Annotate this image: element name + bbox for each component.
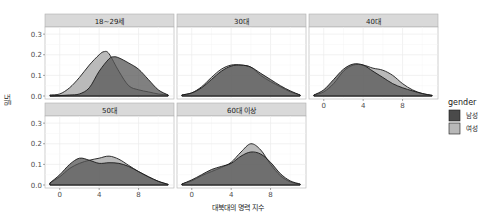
y-tick-label: 0.2: [31, 140, 42, 148]
x-tick-label: 8: [136, 191, 140, 199]
y-tick-label: 0.0: [31, 182, 42, 190]
x-tick-label: 4: [97, 191, 102, 199]
x-tick-label: 4: [229, 191, 234, 199]
facet-panel: 40대048: [309, 14, 438, 110]
y-tick-label: 0.2: [31, 51, 42, 59]
facet-label: 18~29세: [95, 17, 125, 26]
legend-label-female: 여성: [466, 124, 478, 133]
facet-label: 50대: [102, 107, 117, 115]
x-tick-label: 0: [190, 191, 194, 199]
facet-label: 60대 이상: [227, 106, 257, 115]
legend: gender 남성 여성: [448, 98, 478, 134]
facet-label: 40대: [366, 18, 381, 26]
facet-panel: 30대: [177, 14, 306, 99]
x-tick-label: 0: [322, 102, 326, 110]
facet-panel: 18~29세0.00.10.20.3: [31, 14, 174, 101]
x-tick-label: 8: [268, 191, 272, 199]
x-tick-label: 8: [400, 102, 404, 110]
legend-label-male: 남성: [466, 111, 478, 120]
legend-swatch-female: [449, 123, 460, 134]
facet-panel: 60대 이상048: [177, 103, 306, 199]
x-tick-label: 4: [361, 102, 366, 110]
x-axis-title: 대북대의 명력 지수: [212, 203, 265, 212]
density-chart: 18~29세0.00.10.20.330대40대04850대0.00.10.20…: [0, 0, 497, 221]
x-tick-label: 0: [58, 191, 62, 199]
facet-panel: 50대0.00.10.20.3048: [31, 103, 174, 199]
facet-label: 30대: [234, 18, 249, 26]
legend-title: gender: [448, 98, 477, 107]
y-tick-label: 0.1: [31, 72, 42, 80]
legend-swatch-male: [449, 110, 460, 121]
y-tick-label: 0.0: [31, 93, 42, 101]
y-tick-label: 0.3: [31, 31, 42, 39]
facet-panels: 18~29세0.00.10.20.330대40대04850대0.00.10.20…: [31, 14, 438, 199]
y-axis-title: 밀도: [4, 93, 12, 106]
y-tick-label: 0.1: [31, 161, 42, 169]
y-tick-label: 0.3: [31, 120, 42, 128]
